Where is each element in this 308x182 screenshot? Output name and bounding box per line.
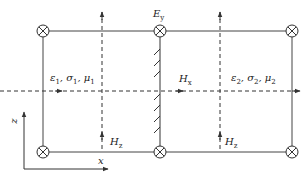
coordinate-axes (24, 112, 108, 169)
medium2-label: ε2, σ2, μ2 (231, 73, 276, 86)
hx-label: Hx (179, 74, 192, 87)
diagram-canvas (0, 0, 308, 182)
hz-label-left: Hz (110, 137, 122, 150)
circle-cross-icon (37, 25, 298, 158)
medium1-label: ε1, σ1, μ1 (50, 73, 95, 86)
ey-label: Ey (153, 9, 164, 22)
x-axis-label: x (98, 156, 104, 166)
z-axis-label: z (9, 118, 19, 123)
hz-label-right: Hz (225, 137, 237, 150)
field-diagram: Ey ε1, σ1, μ1 ε2, σ2, μ2 Hx Hz Hz x z (0, 0, 308, 182)
